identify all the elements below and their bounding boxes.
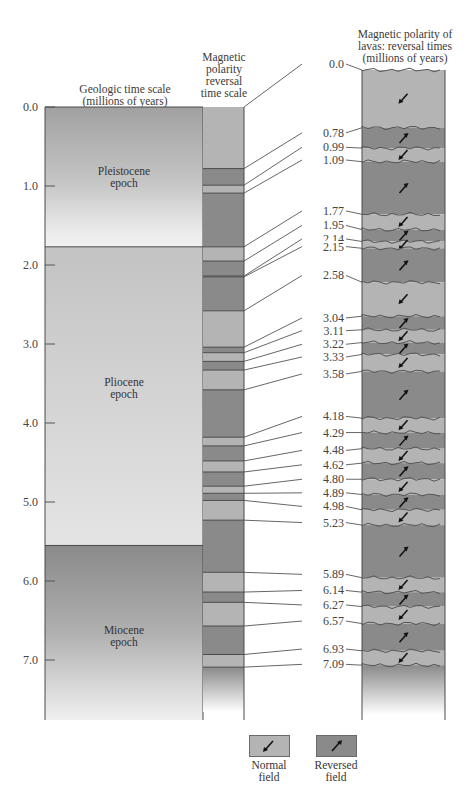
tick-label: 0.0 xyxy=(4,100,38,115)
epoch-label-miocene: Miocene epoch xyxy=(84,624,164,648)
reversal-time-label: 4.18 xyxy=(303,410,345,422)
epoch-name: Pliocene xyxy=(84,376,164,388)
reversal-time-label: 0.99 xyxy=(303,141,345,153)
connector-line xyxy=(346,160,362,162)
connector-line xyxy=(244,479,302,486)
tick-label: 7.0 xyxy=(4,653,38,668)
connector-line xyxy=(244,211,302,247)
connector-line xyxy=(244,664,302,667)
reversal-time-label: 3.22 xyxy=(303,338,345,350)
normal-band xyxy=(203,572,244,592)
reversal-time-label: 6.27 xyxy=(303,599,345,611)
connector-line xyxy=(244,160,302,193)
normal-band xyxy=(203,461,244,472)
arrow-down-left-icon xyxy=(263,741,273,752)
lava-column xyxy=(362,68,445,720)
connector-line xyxy=(346,211,362,214)
legend-reversed-label: Reversed field xyxy=(306,759,366,783)
epoch-sub: epoch xyxy=(84,636,164,648)
legend-normal-swatch xyxy=(249,735,290,757)
normal-band xyxy=(203,654,244,667)
polarity-column xyxy=(203,107,244,720)
normal-band xyxy=(203,185,244,193)
reversal-time-label: 0.78 xyxy=(303,127,345,139)
normal-band xyxy=(203,107,244,169)
connector-line xyxy=(346,416,362,418)
connector-line xyxy=(346,493,362,495)
connector-line xyxy=(346,147,362,148)
connector-line xyxy=(346,247,362,249)
normal-band xyxy=(203,500,244,520)
reversal-time-label: 1.95 xyxy=(303,219,345,231)
reversed-band xyxy=(203,493,244,500)
connector-line xyxy=(346,275,362,282)
reversal-time-label: 2.15 xyxy=(303,241,345,253)
connector-line xyxy=(346,605,362,607)
reversed-band xyxy=(203,169,244,186)
reversed-band xyxy=(203,261,244,276)
lava-reversed-layer xyxy=(362,665,445,715)
reversal-time-label: 3.33 xyxy=(303,351,345,363)
connector-line xyxy=(244,225,302,261)
connector-line xyxy=(244,649,302,654)
reversal-time-label: 6.57 xyxy=(303,615,345,627)
connector-line xyxy=(346,343,362,345)
reversal-time-label: 4.48 xyxy=(303,444,345,456)
epoch-name: Pleistocene xyxy=(84,165,164,177)
reversal-time-label: 5.23 xyxy=(303,517,345,529)
reversed-band xyxy=(203,520,244,572)
reversal-time-label: 3.04 xyxy=(303,312,345,324)
reversed-band xyxy=(203,361,244,370)
connector-line xyxy=(244,602,302,605)
reversal-time-label: 3.58 xyxy=(303,368,345,380)
normal-band xyxy=(203,370,244,390)
epoch-name: Miocene xyxy=(84,624,164,636)
normal-band xyxy=(203,353,244,362)
legend-normal-line2: field xyxy=(239,771,299,783)
reversal-time-label: 7.09 xyxy=(303,658,345,670)
reversal-time-label: 4.80 xyxy=(303,473,345,485)
connector-line xyxy=(244,450,302,461)
legend-reversed-line2: field xyxy=(306,771,366,783)
connector-line xyxy=(244,331,302,353)
reversed-band xyxy=(203,592,244,602)
reversed-band xyxy=(203,277,244,311)
reversal-time-label: 2.58 xyxy=(303,269,345,281)
connector-line xyxy=(346,621,362,624)
normal-band xyxy=(203,247,244,261)
reversal-time-label: 6.14 xyxy=(303,584,345,596)
reversal-time-label: 0.0 xyxy=(303,58,345,70)
connector-line xyxy=(244,374,302,390)
connector-line xyxy=(346,463,362,465)
connector-line xyxy=(346,449,362,451)
epoch-sub: epoch xyxy=(84,388,164,400)
reversal-time-label: 4.62 xyxy=(303,459,345,471)
epoch-label-pleistocene: Pleistocene epoch xyxy=(84,165,164,189)
tick-label: 1.0 xyxy=(4,179,38,194)
reversal-time-label: 4.89 xyxy=(303,487,345,499)
connector-line xyxy=(346,239,362,242)
arrow-up-right-icon xyxy=(332,740,342,751)
connector-line xyxy=(346,649,362,651)
reversed-band xyxy=(203,390,244,437)
connector-line xyxy=(244,500,302,506)
tick-label: 5.0 xyxy=(4,495,38,510)
tick-label: 3.0 xyxy=(4,337,38,352)
connector-line xyxy=(346,590,362,592)
epoch-sub: epoch xyxy=(84,177,164,189)
tick-label: 6.0 xyxy=(4,574,38,589)
reversed-band xyxy=(203,446,244,461)
normal-band xyxy=(203,486,244,493)
connector-line xyxy=(346,330,362,331)
connector-line xyxy=(244,147,302,185)
connector-line xyxy=(346,316,362,318)
normal-band xyxy=(203,311,244,347)
connector-line xyxy=(346,574,362,577)
connector-line xyxy=(244,590,302,592)
reversal-time-label: 1.77 xyxy=(303,205,345,217)
legend-reversed-swatch xyxy=(316,735,357,757)
connector-line xyxy=(346,523,362,526)
connector-line xyxy=(346,64,362,70)
reversal-time-label: 6.93 xyxy=(303,643,345,655)
legend-normal-label: Normal field xyxy=(239,759,299,783)
